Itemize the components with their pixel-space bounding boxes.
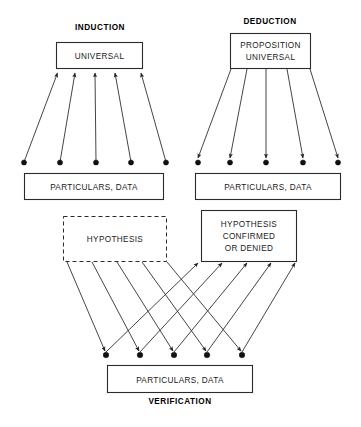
verification-up-arrow-3: [174, 263, 247, 352]
verification-down-arrow-4: [142, 262, 206, 351]
deduction-arrow-5: [310, 69, 338, 158]
induction-arrow-3: [95, 73, 96, 162]
induction-node-4: [128, 160, 133, 165]
hypothesis-result-label-line1: HYPOTHESIS: [221, 220, 277, 229]
induction-arrow-4: [115, 73, 131, 162]
deduction-node-5: [335, 160, 340, 165]
deduction-node-4: [300, 160, 305, 165]
deduction-node-1: [195, 160, 200, 165]
verification-panel: HYPOTHESIS HYPOTHESIS CONFIRMED OR DENIE…: [64, 211, 297, 407]
hypothesis-result-label-line3: OR DENIED: [225, 244, 274, 253]
verification-down-arrow-5: [167, 262, 241, 351]
induction-node-2: [57, 160, 62, 165]
deduction-arrow-2: [230, 69, 247, 158]
proposition-universal-label-line1: PROPOSITION: [240, 41, 301, 50]
philosophy-method-diagram: INDUCTION UNIVERSAL PARTICULARS, DATA DE…: [0, 0, 361, 427]
induction-node-3: [93, 160, 98, 165]
deduction-node-2: [227, 160, 232, 165]
proposition-universal-label-line2: UNIVERSAL: [246, 53, 296, 62]
deduction-panel: DEDUCTION PROPOSITION UNIVERSAL PARTICUL…: [195, 17, 340, 200]
induction-arrow-1: [24, 73, 58, 162]
verification-up-arrow-4: [207, 263, 271, 352]
induction-arrow-5: [141, 73, 166, 162]
hypothesis-box-label: HYPOTHESIS: [87, 235, 143, 244]
verification-node-3: [171, 352, 177, 358]
induction-arrow-2: [60, 73, 75, 162]
deduction-node-3: [263, 160, 268, 165]
verification-node-2: [137, 352, 143, 358]
particulars-left-label: PARTICULARS, DATA: [50, 183, 138, 192]
deduction-arrow-4: [287, 69, 303, 158]
particulars-right-label: PARTICULARS, DATA: [224, 183, 312, 192]
verification-node-5: [239, 352, 245, 358]
induction-panel: INDUCTION UNIVERSAL PARTICULARS, DATA: [21, 23, 168, 200]
deduction-title: DEDUCTION: [243, 17, 296, 26]
induction-title: INDUCTION: [75, 23, 125, 32]
verification-up-arrow-5: [242, 263, 295, 352]
verification-node-1: [103, 352, 109, 358]
diagram-canvas: INDUCTION UNIVERSAL PARTICULARS, DATA DE…: [0, 0, 361, 427]
verification-node-4: [204, 352, 210, 358]
universal-box-label: UNIVERSAL: [75, 52, 125, 61]
induction-node-5: [163, 160, 168, 165]
particulars-bottom-label: PARTICULARS, DATA: [136, 376, 224, 385]
induction-node-1: [21, 160, 26, 165]
deduction-arrow-1: [198, 69, 231, 158]
verification-title: VERIFICATION: [148, 397, 211, 406]
proposition-universal-box: [231, 34, 311, 69]
hypothesis-result-label-line2: CONFIRMED: [223, 232, 276, 241]
verification-down-arrow-3: [117, 262, 173, 351]
